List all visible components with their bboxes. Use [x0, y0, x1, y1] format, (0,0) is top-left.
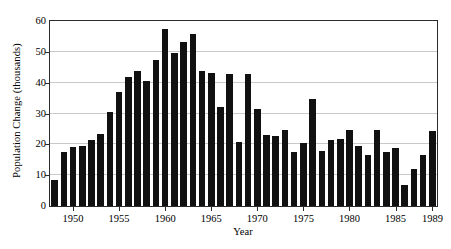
x-tick-label-1980: 1980: [329, 213, 369, 224]
x-tick-label-1989: 1989: [412, 213, 451, 224]
bar: [171, 53, 178, 206]
chart-figure: Population Change (thousands) 0102030405…: [0, 0, 451, 249]
x-tick-label-1955: 1955: [99, 213, 139, 224]
bar: [401, 185, 408, 206]
bar: [365, 155, 372, 206]
bar: [134, 71, 141, 206]
bar: [245, 74, 252, 206]
bar: [97, 134, 104, 206]
x-axis-title: Year: [48, 226, 438, 237]
bar: [291, 152, 298, 206]
bar: [51, 180, 58, 206]
y-tick-label-40: 40: [4, 78, 46, 88]
x-tick-mark-1975: [303, 207, 304, 211]
x-tick-mark-1960: [165, 207, 166, 211]
y-tick-label-50: 50: [4, 47, 46, 57]
y-tick-label-60: 60: [4, 16, 46, 26]
bar: [282, 130, 289, 206]
bar: [143, 81, 150, 206]
y-tick-label-30: 30: [4, 109, 46, 119]
bar: [217, 107, 224, 206]
bar: [300, 143, 307, 206]
x-tick-mark-1989: [432, 207, 433, 211]
bar: [272, 136, 279, 206]
plot-area: [49, 20, 438, 207]
bar: [374, 130, 381, 206]
bar: [162, 29, 169, 206]
bar: [79, 146, 86, 206]
bar: [226, 74, 233, 206]
bar: [309, 99, 316, 206]
x-tick-mark-1970: [257, 207, 258, 211]
x-tick-label-1985: 1985: [376, 213, 416, 224]
y-axis-ticks: 0102030405060: [0, 20, 46, 207]
x-tick-label-1950: 1950: [53, 213, 93, 224]
bar: [153, 60, 160, 206]
bar: [190, 34, 197, 206]
bar: [180, 42, 187, 206]
bar: [337, 139, 344, 206]
x-tick-label-1965: 1965: [191, 213, 231, 224]
x-tick-mark-1950: [73, 207, 74, 211]
bar-series: [50, 21, 437, 206]
bar: [355, 146, 362, 206]
x-tick-label-1975: 1975: [283, 213, 323, 224]
y-tick-label-10: 10: [4, 170, 46, 180]
x-tick-label-1960: 1960: [145, 213, 185, 224]
bar: [254, 109, 261, 206]
bar: [383, 152, 390, 206]
bar: [125, 77, 132, 207]
x-tick-mark-1965: [211, 207, 212, 211]
y-tick-label-20: 20: [4, 139, 46, 149]
bar: [199, 71, 206, 206]
y-tick-label-0: 0: [4, 201, 46, 211]
x-tick-mark-1985: [396, 207, 397, 211]
bar: [263, 135, 270, 206]
bar: [429, 131, 436, 206]
bar: [392, 148, 399, 206]
bar: [88, 140, 95, 206]
bar: [346, 130, 353, 206]
x-tick-mark-1955: [119, 207, 120, 211]
bar: [328, 140, 335, 206]
bar: [61, 152, 68, 206]
bar: [116, 92, 123, 206]
bar: [411, 169, 418, 206]
bar: [107, 112, 114, 206]
bar: [420, 155, 427, 206]
x-tick-mark-1980: [349, 207, 350, 211]
bar: [208, 73, 215, 206]
bar: [70, 147, 77, 207]
bar: [319, 151, 326, 207]
bar: [236, 142, 243, 206]
x-tick-label-1970: 1970: [237, 213, 277, 224]
